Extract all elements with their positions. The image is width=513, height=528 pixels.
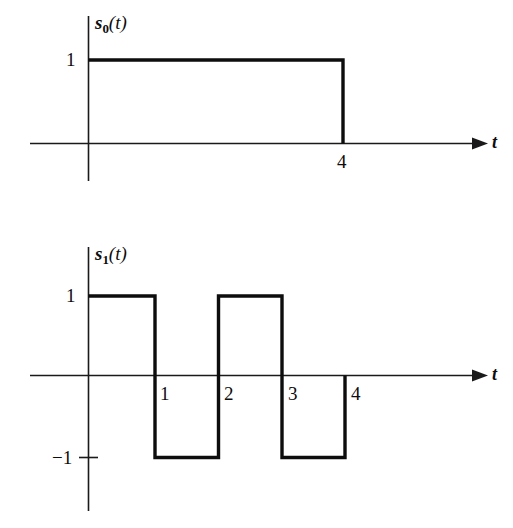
bottom-plot-y-tick-label-1: 1: [66, 286, 76, 305]
top-plot-signal-label-subscript: 0: [102, 21, 108, 36]
bottom-plot-signal-s1: [89, 296, 346, 458]
bottom-plot-x-axis-label: t: [492, 365, 497, 383]
top-plot-signal-label-arg: (t): [109, 12, 127, 33]
top-plot-group: [30, 16, 488, 181]
bottom-plot-y-tick-label-minus-1: −1: [52, 448, 72, 467]
bottom-plot-x-tick-label-4: 4: [351, 384, 361, 403]
bottom-plot-x-tick-label-1: 1: [160, 384, 170, 403]
top-plot-signal-label: s0(t): [95, 13, 127, 32]
figure-root: s0(t) 1 4 t s1(t) 1 −1 1 2 3 4 t: [0, 0, 513, 528]
top-plot-y-tick-label-1: 1: [66, 50, 76, 69]
top-plot-signal-s0: [89, 60, 344, 144]
bottom-plot-signal-label-arg: (t): [109, 243, 127, 264]
top-plot-x-axis-arrow-icon: [472, 138, 488, 150]
top-plot-x-tick-label-4: 4: [337, 152, 347, 171]
bottom-plot-group: [30, 247, 488, 511]
bottom-plot-x-tick-label-2: 2: [224, 384, 234, 403]
top-plot-x-axis-label: t: [492, 133, 497, 151]
bottom-plot-x-tick-label-3: 3: [288, 384, 298, 403]
bottom-plot-signal-label: s1(t): [95, 244, 127, 263]
bottom-plot-x-axis-arrow-icon: [472, 370, 488, 382]
bottom-plot-signal-label-subscript: 1: [102, 252, 108, 267]
signal-waveform-figure: [0, 0, 513, 528]
